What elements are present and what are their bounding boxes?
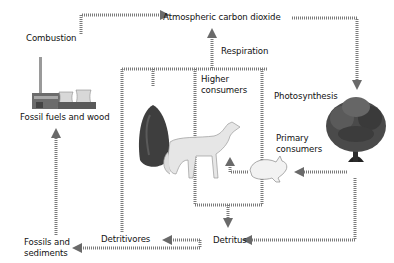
higher-consumers-label-2: consumers <box>201 85 247 96</box>
arrowhead-detritivores <box>162 235 172 245</box>
fossils-label-1: Fossils and <box>24 237 70 248</box>
respiration-label: Respiration <box>221 46 268 57</box>
deciduous-tree-illustration <box>326 97 386 162</box>
combustion-label: Combustion <box>26 33 76 44</box>
arrowhead-fossils <box>72 243 82 253</box>
primary-consumers-label-2: consumers <box>276 144 322 155</box>
higher-consumers-label-1: Higher <box>201 74 229 85</box>
arrowhead-photosynthesis <box>352 80 362 90</box>
arrowhead-fossil-fuels <box>51 128 61 138</box>
rabbit-illustration <box>250 156 287 182</box>
photosynthesis-label: Photosynthesis <box>274 91 338 102</box>
arrowhead-respiration <box>207 28 217 38</box>
arrowhead-higher <box>225 157 235 166</box>
arrowhead-primary <box>294 167 304 177</box>
detritivores-label: Detritivores <box>101 234 150 245</box>
carbon-cycle-diagram: Atmospheric carbon dioxide Combustion Fo… <box>0 0 394 263</box>
photosynthesis-arrow <box>292 18 357 82</box>
power-plant-illustration <box>32 57 96 109</box>
primary-consumers-label-1: Primary <box>276 133 309 144</box>
arrowhead-detritus-down <box>223 218 233 228</box>
tree-to-detritus-arrow <box>250 178 355 240</box>
atmosphere-label: Atmospheric carbon dioxide <box>163 12 281 23</box>
detritus-label: Detritus <box>213 235 247 246</box>
fossils-label-2: sediments <box>24 248 68 259</box>
combustion-arrow <box>81 15 160 34</box>
fossil-fuels-label: Fossil fuels and wood <box>20 112 110 123</box>
